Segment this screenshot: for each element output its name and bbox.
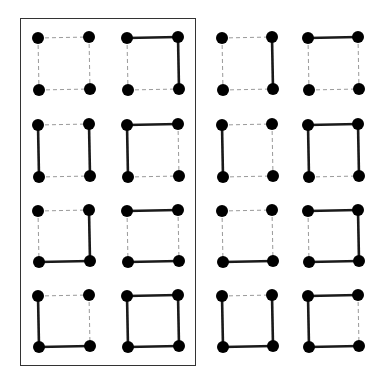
node-dot-bl: [33, 341, 45, 353]
dashed-top-edge: [38, 37, 89, 38]
square-r2-c1: [32, 118, 96, 183]
dashed-right-edge: [358, 37, 359, 89]
square-r1-c3: [216, 31, 279, 96]
node-dot-br: [267, 340, 279, 352]
solid-bottom-edge: [128, 261, 179, 262]
node-dot-br: [84, 255, 96, 267]
node-dot-tl: [32, 32, 44, 44]
square-r3-c1: [32, 204, 96, 268]
node-dot-bl: [217, 341, 229, 353]
dashed-bottom-edge: [128, 89, 179, 90]
node-dot-tr: [172, 289, 184, 301]
dashed-left-edge: [127, 211, 128, 262]
dashed-right-edge: [272, 124, 273, 176]
node-dot-bl: [217, 84, 229, 96]
solid-top-edge: [127, 124, 178, 125]
node-dot-bl: [303, 341, 315, 353]
node-dot-tr: [172, 118, 184, 130]
square-r1-c4: [302, 31, 365, 96]
node-dot-tl: [121, 32, 133, 44]
solid-bottom-edge: [39, 261, 90, 262]
square-r2-c2: [121, 118, 185, 183]
solid-left-edge: [127, 296, 128, 347]
node-dot-br: [353, 340, 365, 352]
square-r3-c3: [216, 204, 279, 268]
dashed-right-edge: [178, 210, 179, 261]
node-dot-tl: [302, 205, 314, 217]
square-r3-c2: [121, 204, 185, 268]
solid-left-edge: [38, 125, 39, 177]
solid-bottom-edge: [39, 346, 90, 347]
square-r4-c3: [216, 289, 279, 353]
solid-top-edge: [308, 37, 358, 38]
solid-left-edge: [222, 296, 223, 347]
solid-right-edge: [358, 210, 359, 261]
node-dot-bl: [33, 256, 45, 268]
solid-bottom-edge: [223, 346, 273, 347]
square-r2-c3: [216, 118, 279, 183]
node-dot-br: [84, 83, 96, 95]
dashed-left-edge: [38, 211, 39, 262]
dashed-right-edge: [358, 295, 359, 346]
node-dot-br: [353, 255, 365, 267]
solid-top-edge: [308, 295, 358, 296]
dashed-top-edge: [38, 124, 89, 125]
node-dot-tl: [32, 205, 44, 217]
dashed-top-edge: [222, 295, 272, 296]
node-dot-br: [353, 83, 365, 95]
node-dot-tr: [83, 289, 95, 301]
node-dot-tl: [121, 205, 133, 217]
solid-bottom-edge: [309, 346, 359, 347]
dashed-right-edge: [89, 295, 90, 346]
node-dot-tr: [266, 31, 278, 43]
solid-right-edge: [272, 295, 273, 346]
solid-top-edge: [127, 295, 178, 296]
solid-left-edge: [308, 125, 309, 177]
node-dot-br: [353, 170, 365, 182]
node-dot-br: [173, 340, 185, 352]
dashed-top-edge: [38, 210, 89, 211]
node-dot-tl: [216, 32, 228, 44]
dashed-top-edge: [222, 124, 272, 125]
solid-left-edge: [222, 125, 223, 177]
solid-right-edge: [178, 37, 179, 89]
dashed-bottom-edge: [223, 176, 273, 177]
node-dot-tl: [216, 290, 228, 302]
node-dot-bl: [217, 256, 229, 268]
dashed-top-edge: [222, 37, 272, 38]
solid-right-edge: [358, 124, 359, 176]
node-dot-br: [173, 255, 185, 267]
square-r1-c1: [32, 31, 96, 96]
dashed-left-edge: [38, 38, 39, 90]
dashed-bottom-edge: [223, 89, 273, 90]
dashed-left-edge: [308, 211, 309, 262]
dashed-left-edge: [308, 38, 309, 90]
dashed-right-edge: [178, 124, 179, 176]
square-r4-c1: [32, 289, 96, 353]
node-dot-tr: [352, 31, 364, 43]
dashed-bottom-edge: [309, 176, 359, 177]
dashed-bottom-edge: [309, 89, 359, 90]
dashed-top-edge: [38, 295, 89, 296]
node-dot-bl: [33, 84, 45, 96]
node-dot-tr: [352, 118, 364, 130]
node-dot-tl: [121, 290, 133, 302]
solid-left-edge: [38, 296, 39, 347]
node-dot-tl: [302, 290, 314, 302]
solid-bottom-edge: [309, 261, 359, 262]
square-r4-c4: [302, 289, 365, 353]
solid-left-edge: [127, 125, 128, 177]
dashed-right-edge: [272, 210, 273, 261]
dashed-left-edge: [127, 38, 128, 90]
solid-top-edge: [127, 210, 178, 211]
node-dot-bl: [303, 171, 315, 183]
node-dot-tr: [352, 204, 364, 216]
node-dot-tl: [302, 32, 314, 44]
node-dot-tr: [83, 204, 95, 216]
node-dot-bl: [303, 256, 315, 268]
square-r1-c2: [121, 31, 185, 96]
solid-left-edge: [308, 296, 309, 347]
node-dot-br: [267, 83, 279, 95]
node-dot-tr: [83, 118, 95, 130]
solid-bottom-edge: [128, 346, 179, 347]
